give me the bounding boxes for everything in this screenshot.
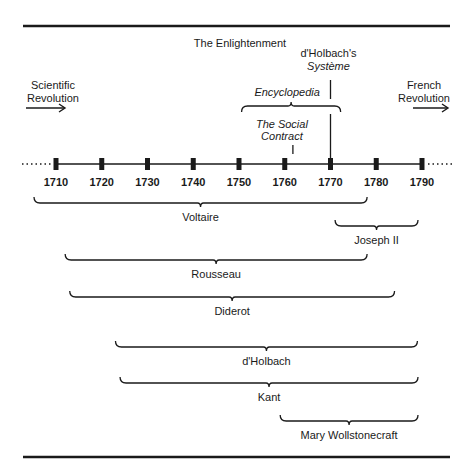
scientific-revolution-line-2: Revolution	[27, 92, 79, 104]
tick-label-1750: 1750	[227, 176, 251, 188]
lifespan-label-d-holbach: d'Holbach	[242, 355, 291, 367]
tick-label-1790: 1790	[410, 176, 434, 188]
lifespan-brace-voltaire	[34, 197, 367, 207]
systeme-label-line-1: d'Holbach's	[300, 47, 357, 59]
lifespan-brace-diderot	[70, 291, 395, 301]
french-revolution-label: French Revolution	[398, 79, 450, 104]
lifespan-label-joseph-ii: Joseph II	[354, 234, 399, 246]
timeline-axis: 171017201730174017501760177017801790	[22, 158, 452, 188]
tick-mark-1780	[374, 158, 379, 170]
right-arrow-icon	[26, 104, 65, 112]
lifespan-label-diderot: Diderot	[214, 305, 249, 317]
tick-mark-1710	[54, 158, 59, 170]
french-revolution-line-2: Revolution	[398, 92, 450, 104]
encyclopedia-brace	[242, 102, 341, 112]
lifespan-label-voltaire: Voltaire	[182, 211, 219, 223]
french-revolution-line-1: French	[407, 79, 441, 91]
tick-mark-1770	[328, 158, 333, 170]
tick-label-1740: 1740	[181, 176, 205, 188]
lifespan-brace-rousseau	[65, 254, 367, 264]
lifespan-label-kant: Kant	[258, 391, 281, 403]
tick-label-1770: 1770	[318, 176, 342, 188]
lifespan-label-mary-wollstonecraft: Mary Wollstonecraft	[301, 429, 398, 441]
tick-mark-1730	[145, 158, 150, 170]
social-contract-label-line-2: Contract	[261, 130, 304, 142]
lifespan-label-rousseau: Rousseau	[191, 268, 241, 280]
lifespan-brace-joseph-ii	[335, 220, 418, 230]
tick-mark-1760	[282, 158, 287, 170]
lifespan-brace-kant	[120, 377, 418, 387]
timeline-events: EncyclopediaThe SocialContractd'Holbach'…	[242, 47, 358, 158]
diagram-title: The Enlightenment	[194, 37, 286, 49]
social-contract-label-line-1: The Social	[256, 118, 309, 130]
scientific-revolution-label: Scientific Revolution	[27, 79, 79, 104]
tick-label-1730: 1730	[135, 176, 159, 188]
lifespan-brace-d-holbach	[115, 341, 417, 351]
lifespan-braces: VoltaireJoseph IIRousseauDiderotd'Holbac…	[34, 197, 418, 441]
tick-mark-1720	[99, 158, 104, 170]
encyclopedia-label: Encyclopedia	[254, 86, 319, 98]
scientific-revolution-line-1: Scientific	[31, 79, 76, 91]
tick-mark-1740	[191, 158, 196, 170]
right-arrow-icon	[413, 104, 448, 112]
tick-label-1760: 1760	[273, 176, 297, 188]
tick-mark-1750	[237, 158, 242, 170]
lifespan-brace-mary-wollstonecraft	[280, 415, 418, 425]
enlightenment-timeline-diagram: The Enlightenment Scientific Revolution …	[0, 0, 473, 475]
systeme-label-line-2: Système	[307, 60, 350, 72]
tick-label-1720: 1720	[90, 176, 114, 188]
tick-label-1780: 1780	[364, 176, 388, 188]
tick-label-1710: 1710	[44, 176, 68, 188]
tick-mark-1790	[420, 158, 425, 170]
